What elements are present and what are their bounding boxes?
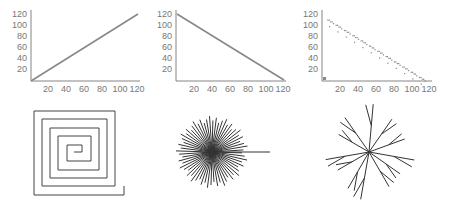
x-tick-label: 60	[79, 84, 89, 94]
chart-decreasing-scatter-svg: 120 100 80 60 40 20 20 40 60 80 100 120	[300, 0, 449, 100]
y-tick-label: 120	[12, 9, 27, 19]
y-tick-label: 40	[308, 53, 318, 63]
x-axis: 20 40 60 80 100 120	[322, 81, 437, 94]
branch-lines	[326, 104, 415, 199]
y-tick-label: 120	[157, 9, 172, 19]
x-tick-label: 60	[371, 84, 381, 94]
y-tick-label: 60	[308, 42, 318, 52]
square-spiral-diagram	[0, 100, 150, 208]
y-tick-label: 20	[17, 64, 27, 74]
x-axis: 20 40 60 80 100 120	[176, 81, 291, 94]
chart-decreasing-line-svg: 120 100 80 60 40 20 20 40 60 80 100 120	[150, 0, 300, 100]
chart-increasing-line: 120 100 80 60 40 20 20 40 60 80 100 120	[0, 0, 150, 100]
x-tick-label: 100	[258, 84, 273, 94]
y-axis: 120 100 80 60 40 20	[157, 9, 176, 81]
y-tick-label: 80	[308, 31, 318, 41]
x-tick-label: 40	[353, 84, 363, 94]
y-axis: 120 100 80 60 40 20	[303, 9, 322, 81]
x-tick-label: 20	[43, 84, 53, 94]
square-spiral-svg	[0, 100, 150, 208]
spiral-path	[34, 111, 124, 195]
y-tick-label: 20	[308, 64, 318, 74]
x-tick-label: 40	[61, 84, 71, 94]
y-tick-label: 20	[162, 64, 172, 74]
y-tick-label: 60	[162, 42, 172, 52]
chart-decreasing-line: 120 100 80 60 40 20 20 40 60 80 100 120	[150, 0, 300, 100]
y-tick-label: 100	[303, 20, 318, 30]
x-axis: 20 40 60 80 100 120	[31, 81, 145, 94]
x-tick-label: 40	[207, 84, 217, 94]
y-tick-label: 40	[17, 53, 27, 63]
scatter-points	[323, 20, 426, 85]
x-tick-label: 120	[275, 84, 290, 94]
branching-star-svg	[300, 100, 449, 208]
x-tick-label: 100	[404, 84, 419, 94]
y-tick-label: 80	[17, 31, 27, 41]
x-tick-label: 100	[112, 84, 127, 94]
y-tick-label: 100	[157, 20, 172, 30]
x-tick-label: 120	[421, 84, 436, 94]
x-tick-label: 120	[129, 84, 144, 94]
y-tick-label: 40	[162, 53, 172, 63]
y-tick-label: 60	[17, 42, 27, 52]
data-line	[177, 14, 284, 80]
y-axis: 120 100 80 60 40 20	[12, 9, 31, 81]
starburst-diagram	[150, 100, 300, 208]
branching-star-diagram	[300, 100, 449, 208]
data-line	[31, 14, 138, 81]
y-tick-label: 100	[12, 20, 27, 30]
x-tick-label: 20	[335, 84, 345, 94]
x-tick-label: 20	[189, 84, 199, 94]
chart-increasing-line-svg: 120 100 80 60 40 20 20 40 60 80 100 120	[0, 0, 150, 100]
y-tick-label: 120	[303, 9, 318, 19]
starburst-svg	[150, 100, 300, 208]
x-tick-label: 80	[243, 84, 253, 94]
x-tick-label: 80	[97, 84, 107, 94]
y-tick-label: 80	[162, 31, 172, 41]
x-tick-label: 60	[225, 84, 235, 94]
x-tick-label: 80	[389, 84, 399, 94]
chart-decreasing-scatter: 120 100 80 60 40 20 20 40 60 80 100 120	[300, 0, 449, 100]
